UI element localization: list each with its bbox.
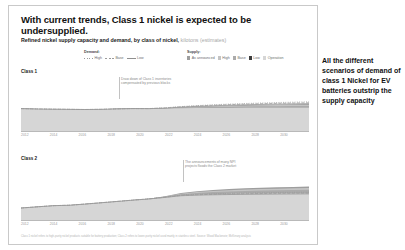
dashed-line-icon: [105, 58, 114, 59]
swatch-icon: [187, 56, 190, 59]
swatch-icon: [233, 56, 236, 59]
x-tick-labels-class-2: 2012201420162018202020222024202620282030: [21, 222, 309, 226]
legend-label: As announced: [192, 56, 215, 60]
legend-item-supply-high[interactable]: High: [218, 56, 230, 60]
legend-item-supply-as-announced[interactable]: As announced: [187, 56, 215, 60]
x-tick-label: 2020: [136, 133, 165, 137]
x-tick-label: 2018: [107, 222, 136, 226]
x-tick-label: 2028: [251, 133, 280, 137]
legend-supply-items: As announced High Base Low Operation: [187, 56, 283, 60]
legend-supply: Supply: As announced High Base Low Opera…: [187, 50, 283, 60]
legend-item-supply-operation[interactable]: Operation: [263, 56, 283, 60]
solid-line-icon: [127, 58, 136, 59]
dotted-line-icon: [84, 58, 93, 59]
x-tick-label: 2012: [21, 133, 50, 137]
legend-label: Operation: [268, 56, 284, 60]
panel-label-class-2: Class 2: [21, 156, 37, 161]
x-tick-label: 2018: [107, 133, 136, 137]
legend-demand-items: High Base Low: [84, 56, 144, 60]
x-axis-class-1: [21, 131, 309, 132]
x-tick-label: 2014: [50, 133, 79, 137]
x-tick-label: 2012: [21, 222, 50, 226]
handwritten-callout: All the different scenarios of demand of…: [322, 56, 402, 106]
swatch-icon: [218, 56, 221, 59]
source-note: Class 1 nickel refers to high-purity nic…: [21, 235, 313, 239]
page-title: With current trends, Class 1 nickel is e…: [21, 14, 307, 36]
legend-item-demand-base[interactable]: Base: [105, 56, 124, 60]
legend-item-demand-low[interactable]: Low: [127, 56, 144, 60]
legend-label: High: [95, 56, 102, 60]
annotation-class-1: Draw down of Class 1 inventories compens…: [121, 77, 177, 86]
x-tick-label: 2028: [251, 222, 280, 226]
legend-label: Low: [137, 56, 144, 60]
x-tick-label: 2026: [223, 133, 252, 137]
subtitle-unit: kilotons (estimates): [181, 37, 227, 43]
x-tick-label: 2014: [50, 222, 79, 226]
x-tick-labels-class-1: 2012201420162018202020222024202620282030: [21, 133, 309, 137]
chart-subtitle: Refined nickel supply capacity and deman…: [21, 37, 311, 43]
x-tick-label: 2026: [223, 222, 252, 226]
legend-demand: Demand: High Base Low: [84, 50, 144, 60]
x-tick-label: 2020: [136, 222, 165, 226]
chart-card: With current trends, Class 1 nickel is e…: [8, 5, 318, 245]
legend-label: Base: [237, 56, 245, 60]
chart-plot-class-2: [21, 182, 309, 220]
swatch-icon: [249, 56, 252, 59]
x-tick-label: 2016: [79, 133, 108, 137]
legend-item-demand-high[interactable]: High: [84, 56, 102, 60]
x-tick-label: 2030: [280, 222, 309, 226]
swatch-icon: [263, 56, 266, 59]
panel-label-class-1: Class 1: [21, 69, 37, 74]
x-tick-label: 2024: [194, 222, 223, 226]
x-tick-label: 2016: [79, 222, 108, 226]
legend-label: Base: [115, 56, 123, 60]
x-tick-label: 2022: [165, 222, 194, 226]
x-tick-label: 2022: [165, 133, 194, 137]
legend-label: High: [222, 56, 229, 60]
legend-item-supply-base[interactable]: Base: [233, 56, 246, 60]
area-operation: [21, 108, 309, 131]
legend-item-supply-low[interactable]: Low: [249, 56, 260, 60]
chart-plot-class-1: [21, 99, 309, 131]
annotation-leader-line-class-1: [119, 77, 120, 99]
annotation-class-2: The announcements of many NPI projects f…: [185, 160, 241, 169]
x-axis-class-2: [21, 220, 309, 221]
subtitle-main: Refined nickel supply capacity and deman…: [21, 37, 179, 43]
x-tick-label: 2024: [194, 133, 223, 137]
x-tick-label: 2030: [280, 133, 309, 137]
annotation-leader-line-class-2: [183, 160, 184, 182]
legend-supply-title: Supply:: [187, 50, 283, 54]
legend-label: Low: [253, 56, 260, 60]
legend-demand-title: Demand:: [84, 50, 144, 54]
